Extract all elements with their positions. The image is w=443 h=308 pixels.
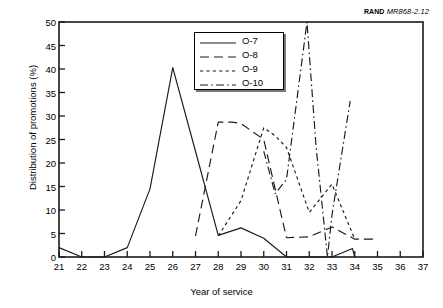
series-line-o-7 — [59, 68, 355, 257]
legend-label: O-9 — [242, 63, 258, 74]
legend-label: O-8 — [242, 49, 258, 60]
legend-entry-o-10: O-10 — [195, 76, 283, 89]
legend-label: O-7 — [242, 35, 258, 46]
legend-label: O-10 — [242, 77, 263, 88]
chart-figure: RAND MR868-2.12 Distribution of promotio… — [0, 0, 443, 308]
legend-entry-o-9: O-9 — [195, 62, 283, 75]
legend-entry-o-7: O-7 — [195, 34, 283, 47]
legend-swatch-o-8 — [199, 49, 237, 61]
legend-swatch-o-7 — [199, 35, 237, 47]
series-line-o-8 — [196, 122, 378, 239]
legend-swatch-o-9 — [199, 63, 237, 75]
chart-legend: O-7O-8O-9O-10 — [194, 32, 284, 90]
series-line-o-9 — [218, 128, 355, 239]
legend-swatch-o-10 — [199, 77, 237, 89]
legend-entry-o-8: O-8 — [195, 48, 283, 61]
